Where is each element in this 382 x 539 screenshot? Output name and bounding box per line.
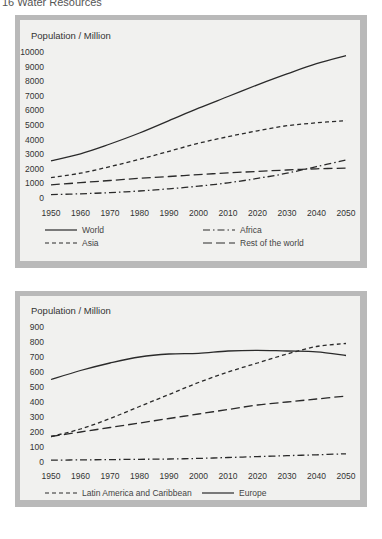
y-tick-label: 700: [30, 352, 44, 362]
y-tick-label: 400: [30, 397, 44, 407]
y-tick-label: 2000: [25, 164, 44, 174]
x-tick-label: 1980: [130, 471, 149, 481]
chart-panel-regions: Population / Million01002003004005006007…: [15, 291, 367, 507]
y-tick-label: 3000: [25, 149, 44, 159]
series-line-africa: [51, 160, 346, 195]
legend-label: Rest of the world: [240, 238, 304, 248]
x-tick-label: 2010: [219, 208, 238, 218]
y-tick-label: 7000: [25, 91, 44, 101]
legend-label: Latin America and Caribbean: [82, 488, 192, 498]
x-tick-label: 2040: [307, 208, 326, 218]
y-tick-label: 0: [39, 457, 44, 467]
y-axis-label: Population / Million: [31, 30, 111, 41]
x-tick-label: 2040: [307, 471, 326, 481]
y-tick-label: 6000: [25, 105, 44, 115]
x-tick-label: 1970: [101, 471, 120, 481]
legend-label: World: [82, 225, 104, 235]
x-tick-label: 1990: [160, 471, 179, 481]
y-tick-label: 9000: [25, 62, 44, 72]
page-header: 16 Water Resources: [2, 0, 102, 8]
x-tick-label: 1980: [130, 208, 149, 218]
x-tick-label: 2030: [278, 208, 297, 218]
x-tick-label: 1950: [42, 471, 61, 481]
x-tick-label: 1960: [71, 471, 90, 481]
regional-population-chart: Population / Million01002003004005006007…: [20, 296, 360, 500]
x-tick-label: 2000: [189, 208, 208, 218]
legend-label: Asia: [82, 238, 99, 248]
y-tick-label: 200: [30, 427, 44, 437]
y-tick-label: 1000: [25, 178, 44, 188]
y-tick-label: 5000: [25, 120, 44, 130]
series-line-world: [51, 56, 346, 161]
x-tick-label: 1990: [160, 208, 179, 218]
series-line-latin-america-and-caribbean: [51, 344, 346, 437]
chart-panel-world: Population / Million01000200030004000500…: [15, 15, 367, 268]
y-tick-label: 500: [30, 382, 44, 392]
legend-label: Africa: [240, 225, 262, 235]
world-population-chart: Population / Million01000200030004000500…: [20, 20, 360, 261]
x-tick-label: 2050: [337, 471, 356, 481]
series-line-oceania: [51, 454, 346, 460]
y-tick-label: 100: [30, 442, 44, 452]
y-tick-label: 8000: [25, 76, 44, 86]
y-tick-label: 300: [30, 412, 44, 422]
y-tick-label: 800: [30, 337, 44, 347]
x-tick-label: 2030: [278, 471, 297, 481]
y-tick-label: 900: [30, 322, 44, 332]
x-tick-label: 2020: [248, 471, 267, 481]
y-tick-label: 10000: [20, 47, 44, 57]
y-axis-label: Population / Million: [31, 305, 111, 316]
y-tick-label: 0: [39, 193, 44, 203]
x-tick-label: 1960: [71, 208, 90, 218]
x-tick-label: 2010: [219, 471, 238, 481]
x-tick-label: 2000: [189, 471, 208, 481]
series-line-europe: [51, 350, 346, 379]
y-tick-label: 600: [30, 367, 44, 377]
series-line-north-america: [51, 396, 346, 437]
x-tick-label: 2050: [337, 208, 356, 218]
x-tick-label: 1970: [101, 208, 120, 218]
legend-label: Europe: [239, 488, 267, 498]
y-tick-label: 4000: [25, 135, 44, 145]
x-tick-label: 1950: [42, 208, 61, 218]
x-tick-label: 2020: [248, 208, 267, 218]
